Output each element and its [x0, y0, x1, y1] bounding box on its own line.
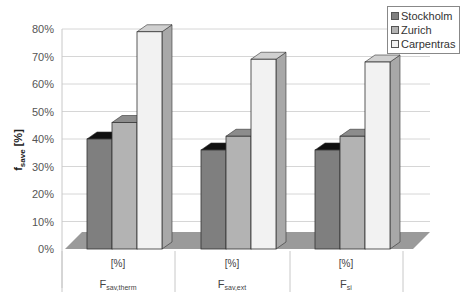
legend-item-zurich: Zurich: [391, 23, 456, 37]
category-unit: [%]: [339, 258, 354, 269]
legend-item-stockholm: Stockholm: [391, 9, 456, 23]
y-tick-label: 30%: [32, 161, 54, 173]
y-tick-label: 50%: [32, 106, 54, 118]
bar-carpentras-0: [137, 25, 172, 249]
category-label: Fsi: [340, 278, 352, 291]
y-axis-label: fsave [%]: [12, 129, 27, 171]
y-tick-label: 70%: [32, 51, 54, 63]
bar-carpentras-2: [365, 55, 400, 249]
y-axis-ticks: 0%10%20%30%40%50%60%70%80%: [32, 23, 54, 255]
category-label: Fsav,ext: [218, 278, 246, 291]
bars: [87, 25, 400, 249]
legend-label: Carpentras: [401, 38, 455, 50]
category-unit: [%]: [111, 258, 126, 269]
legend-item-carpentras: Carpentras: [391, 37, 456, 51]
legend-swatch-stockholm: [391, 12, 399, 20]
y-tick-label: 0%: [38, 243, 54, 255]
legend-swatch-zurich: [391, 26, 399, 34]
y-tick-label: 60%: [32, 78, 54, 90]
y-tick-label: 10%: [32, 216, 54, 228]
category-unit: [%]: [225, 258, 240, 269]
legend-label: Stockholm: [401, 10, 452, 22]
category-table: [%]Fsav,therm[%]Fsav,ext[%]Fsi: [62, 251, 403, 292]
y-tick-label: 20%: [32, 188, 54, 200]
legend: Stockholm Zurich Carpentras: [387, 6, 460, 54]
y-tick-label: 80%: [32, 23, 54, 35]
legend-label: Zurich: [401, 24, 432, 36]
bar-carpentras-1: [251, 52, 286, 249]
y-tick-label: 40%: [32, 133, 54, 145]
legend-swatch-carpentras: [391, 40, 399, 48]
category-label: Fsav,therm: [100, 278, 137, 291]
